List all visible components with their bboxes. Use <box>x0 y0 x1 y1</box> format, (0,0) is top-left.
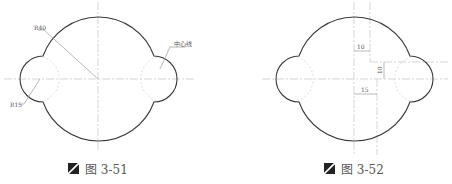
drawing-canvas: R40 R15 中心线 10 10 15 <box>0 0 452 184</box>
caption-fig-3-52: 图 3-52 <box>324 160 384 177</box>
caption-text: 图 3-51 <box>85 160 128 177</box>
centerline-label: 中心线 <box>174 40 192 48</box>
dim-vertical-value: 10 <box>376 66 383 74</box>
dim-bottom-value: 15 <box>361 86 369 93</box>
figure-3-52: 10 10 15 <box>262 2 448 155</box>
figure-marker-icon <box>324 163 335 174</box>
dim-top-value: 10 <box>357 43 365 50</box>
r40-leader <box>38 30 98 79</box>
r15-label: R15 <box>10 101 22 108</box>
caption-text: 图 3-52 <box>341 160 384 177</box>
caption-fig-3-51: 图 3-51 <box>68 160 128 177</box>
r40-label: R40 <box>34 24 46 31</box>
figure-marker-icon <box>68 163 79 174</box>
figure-3-51: R40 R15 中心线 <box>4 2 196 152</box>
